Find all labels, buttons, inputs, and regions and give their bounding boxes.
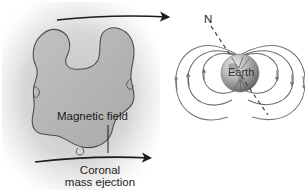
cme-label-line-1: Coronal [44, 164, 156, 176]
field-arrow-right-outer [303, 76, 304, 88]
cme-earth-magnetosphere-diagram: Magnetic field Coronal mass ejection Ear… [0, 0, 305, 192]
cme-label-line-2: mass ejection [44, 176, 156, 188]
north-pole-label: N [204, 13, 212, 25]
coronal-mass-ejection-label: Coronal mass ejection [44, 164, 156, 189]
earth-label: Earth [228, 67, 254, 79]
magnetic-field-label: Magnetic field [57, 110, 128, 122]
